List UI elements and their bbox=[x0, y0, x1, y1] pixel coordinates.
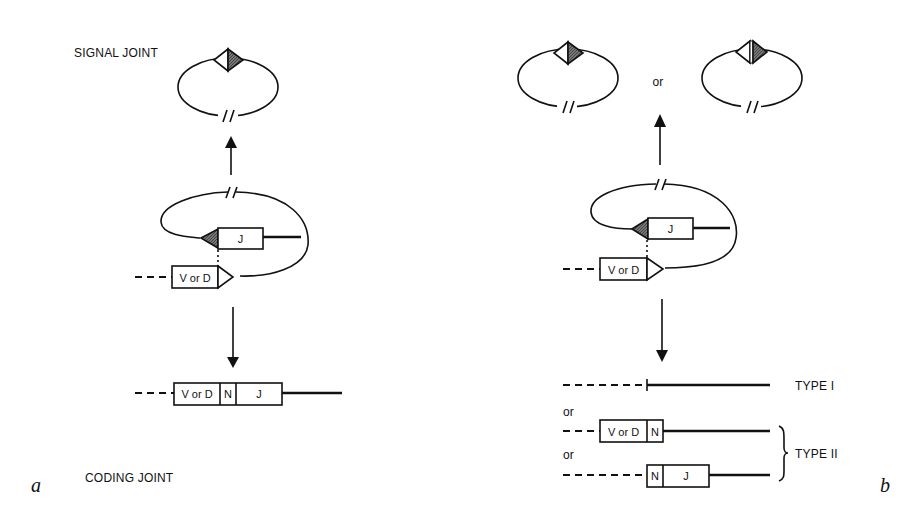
signal-sequence-shaded-icon bbox=[201, 229, 218, 248]
or-label: or bbox=[652, 75, 663, 89]
panel-b: or J V bbox=[518, 41, 890, 496]
signal-sequence-open-icon bbox=[647, 258, 663, 280]
panel-a-label: a bbox=[31, 474, 41, 496]
arrow-down-icon bbox=[656, 299, 668, 362]
type2b-product: N J bbox=[563, 465, 770, 487]
arrow-down-icon bbox=[227, 307, 239, 368]
arrow-up-icon bbox=[225, 136, 237, 175]
panel-a: SIGNAL JOINT J bbox=[31, 46, 342, 496]
vd-segment-label: V or D bbox=[608, 426, 639, 438]
or-label: or bbox=[563, 405, 574, 419]
break-mark-icon bbox=[226, 187, 237, 198]
vd-segment-label: V or D bbox=[608, 264, 639, 276]
recombination-intermediate-a: J V or D bbox=[135, 187, 308, 288]
j-segment-label: J bbox=[668, 223, 674, 235]
signal-joint-circle-right bbox=[702, 41, 802, 113]
n-segment-label: N bbox=[651, 470, 659, 482]
type2-label: TYPE II bbox=[795, 447, 838, 461]
j-segment-label: J bbox=[683, 470, 689, 482]
vd-segment-label: V or D bbox=[179, 272, 210, 284]
signal-sequence-shaded-icon bbox=[632, 219, 648, 239]
coding-joint-label: CODING JOINT bbox=[85, 471, 174, 485]
vd-segment-label: V or D bbox=[181, 388, 212, 400]
type1-product: TYPE I bbox=[563, 379, 834, 393]
signal-joint-label: SIGNAL JOINT bbox=[74, 46, 158, 60]
type2a-product: V or D N bbox=[563, 420, 770, 442]
signal-sequence-pair-with-insert-icon bbox=[736, 41, 767, 63]
j-segment-label: J bbox=[256, 388, 262, 400]
type2-bracket bbox=[779, 426, 788, 481]
n-segment-label: N bbox=[224, 388, 232, 400]
signal-joint-circle bbox=[178, 49, 278, 122]
signal-sequence-open-icon bbox=[218, 266, 233, 288]
n-segment-label: N bbox=[651, 426, 659, 438]
coding-joint-product: V or D N J bbox=[135, 383, 342, 405]
panel-b-label: b bbox=[880, 474, 890, 496]
or-label: or bbox=[563, 448, 574, 462]
signal-sequence-pair-icon bbox=[554, 42, 583, 64]
recombination-intermediate-b: J V or D bbox=[563, 179, 736, 280]
signal-joint-circle-left bbox=[518, 42, 618, 113]
j-segment-label: J bbox=[238, 233, 244, 245]
break-mark-icon bbox=[655, 179, 666, 190]
type1-label: TYPE I bbox=[795, 379, 834, 393]
arrow-up-icon bbox=[654, 114, 666, 165]
signal-sequence-pair-icon bbox=[214, 49, 243, 71]
vdj-recombination-diagram: SIGNAL JOINT J bbox=[0, 0, 915, 523]
